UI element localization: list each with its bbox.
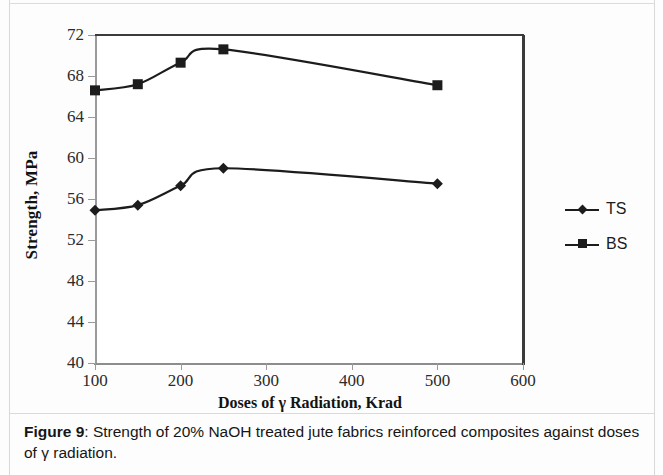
figure-caption: Figure 9: Strength of 20% NaOH treated j… (24, 421, 640, 464)
y-axis-tick-label: 48 (48, 272, 84, 289)
figure-page: 404448525660646872 100200300400500600 St… (0, 0, 663, 475)
y-axis-tick (88, 281, 95, 282)
x-axis-title: Doses of γ Radiation, Krad (160, 394, 460, 412)
x-axis-tick (523, 363, 524, 370)
y-axis-tick-label: 44 (48, 313, 84, 330)
x-axis-tick (352, 363, 353, 370)
y-axis-title: Strength, MPa (22, 120, 42, 290)
y-axis-line (95, 34, 97, 365)
legend-item-bs[interactable]: BS (565, 233, 645, 268)
y-axis-tick-label: 64 (48, 108, 84, 125)
y-axis-tick (88, 199, 95, 200)
legend-label-ts: TS (606, 200, 626, 218)
y-axis-tick (88, 363, 95, 364)
figure-caption-text: Strength of 20% NaOH treated jute fabric… (24, 423, 639, 461)
x-axis-tick-label: 400 (339, 371, 365, 390)
x-axis-tick-label: 300 (253, 371, 279, 390)
x-axis-tick (266, 363, 267, 370)
y-axis-tick-label: 56 (48, 190, 84, 207)
y-axis-tick (88, 158, 95, 159)
y-axis-tick (88, 76, 95, 77)
figure-caption-label: Figure 9 (24, 423, 84, 440)
x-axis-tick (437, 363, 438, 370)
chart-legend: TS BS (565, 198, 645, 268)
legend-item-ts[interactable]: TS (565, 198, 645, 233)
x-axis-line (94, 363, 524, 365)
y-axis-tick-label: 72 (48, 26, 84, 43)
y-axis-tick (88, 240, 95, 241)
y-axis-tick (88, 35, 95, 36)
y-axis-tick-label: 40 (48, 354, 84, 371)
plot-border-right (522, 34, 524, 365)
x-axis-tick-label: 600 (510, 371, 536, 390)
plot-area (95, 35, 525, 365)
y-axis-tick (88, 117, 95, 118)
diamond-marker-icon (578, 205, 588, 215)
caption-divider (9, 413, 655, 414)
y-axis-tick-label: 68 (48, 67, 84, 84)
y-axis-tick-label: 52 (48, 231, 84, 248)
square-marker-icon (578, 239, 587, 248)
x-axis-tick-label: 200 (168, 371, 194, 390)
x-axis-tick (95, 363, 96, 370)
chart-figure: 404448525660646872 100200300400500600 St… (0, 0, 663, 412)
x-axis-tick (181, 363, 182, 370)
plot-border-top (95, 34, 523, 36)
y-axis-tick-label: 60 (48, 149, 84, 166)
x-axis-tick-label: 500 (425, 371, 451, 390)
y-axis-tick (88, 322, 95, 323)
x-axis-tick-label: 100 (82, 371, 108, 390)
legend-label-bs: BS (606, 235, 627, 253)
